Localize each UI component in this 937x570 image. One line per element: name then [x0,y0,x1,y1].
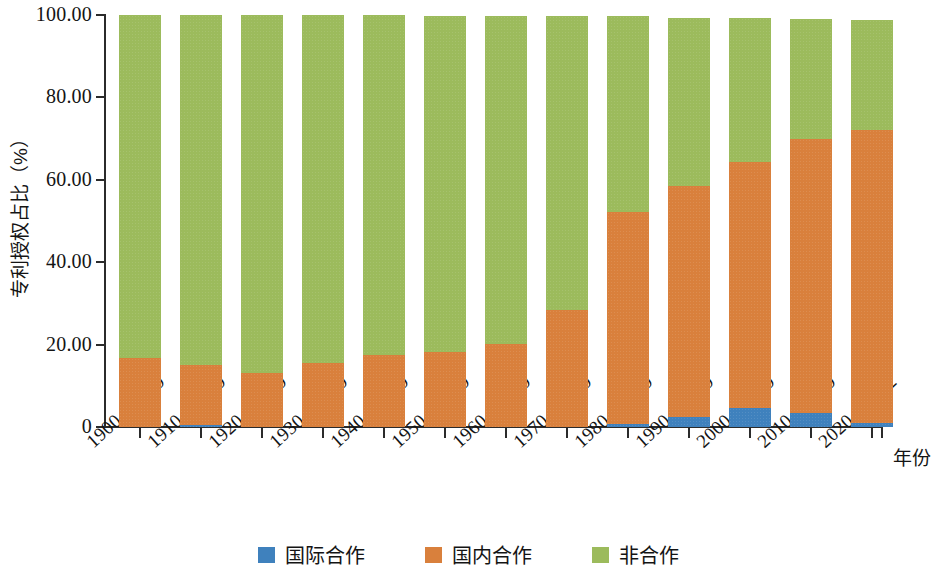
bar-segment[interactable] [607,16,649,212]
x-axis-tick [566,428,568,438]
legend-item[interactable]: 国内合作 [425,540,532,569]
x-axis-tick [139,428,141,438]
plot-area [119,15,879,427]
bar-group[interactable] [790,15,832,427]
bar-segment[interactable] [302,15,344,363]
x-axis-tick [322,428,324,438]
y-axis-tick [96,96,105,98]
x-axis-title: 年份 [893,443,931,470]
bar-group[interactable] [668,15,710,427]
x-axis-tick [810,428,812,438]
bar-segment[interactable] [729,18,771,162]
bar-segment[interactable] [851,423,893,427]
x-axis-tick [627,428,629,438]
x-axis-tick [871,428,873,438]
y-axis-title: 专利授权占比（%） [5,64,32,364]
x-axis-tick [200,428,202,438]
bar-segment[interactable] [180,15,222,365]
bar-group[interactable] [546,15,588,427]
y-axis-tick-label: 100.00 [0,4,92,24]
bar-segment[interactable] [851,20,893,131]
bar-group[interactable] [180,15,222,427]
bar-group[interactable] [607,15,649,427]
bar-segment[interactable] [180,365,222,425]
bar-group[interactable] [485,15,527,427]
y-axis-tick [96,179,105,181]
bar-group[interactable] [119,15,161,427]
legend-item[interactable]: 非合作 [592,540,679,569]
bar-segment[interactable] [424,16,466,352]
y-axis-tick [96,344,105,346]
bar-group[interactable] [424,15,466,427]
bar-group[interactable] [302,15,344,427]
bar-segment[interactable] [119,15,161,358]
x-axis-tick [261,428,263,438]
bar-segment[interactable] [851,130,893,423]
x-axis-tick [383,428,385,438]
bar-segment[interactable] [790,19,832,139]
bar-segment[interactable] [668,186,710,417]
legend-swatch [425,547,442,563]
bar-segment[interactable] [668,417,710,427]
bar-segment[interactable] [546,310,588,427]
x-axis-end-tick [881,428,883,438]
bar-segment[interactable] [729,408,771,427]
bar-segment[interactable] [546,16,588,310]
legend-label: 非合作 [619,540,679,569]
bar-group[interactable] [729,15,771,427]
y-axis-tick [96,14,105,16]
bar-segment[interactable] [363,15,405,355]
bar-segment[interactable] [485,16,527,344]
bar-segment[interactable] [424,352,466,427]
bar-segment[interactable] [180,425,222,427]
y-axis-tick [96,261,105,263]
bar-segment[interactable] [363,355,405,427]
bar-group[interactable] [851,15,893,427]
legend-item[interactable]: 国际合作 [258,540,365,569]
bar-group[interactable] [241,15,283,427]
x-axis-tick [505,428,507,438]
y-axis-tick-label: 0 [0,416,92,436]
bar-segment[interactable] [607,212,649,423]
bar-segment[interactable] [241,15,283,373]
y-axis-line [104,14,106,428]
x-axis-tick [688,428,690,438]
legend-label: 国际合作 [285,540,365,569]
bar-segment[interactable] [790,139,832,413]
bar-segment[interactable] [302,363,344,427]
legend-swatch [258,547,275,563]
bar-group[interactable] [363,15,405,427]
bar-segment[interactable] [607,424,649,427]
bar-segment[interactable] [119,358,161,427]
legend-label: 国内合作 [452,540,532,569]
chart-legend: 国际合作国内合作非合作 [0,540,937,569]
x-axis-tick [444,428,446,438]
x-axis-tick [749,428,751,438]
stacked-bar-chart: 020.0040.0060.0080.00100.00 专利授权占比（%） 19… [0,0,937,570]
bar-segment[interactable] [729,162,771,408]
bar-segment[interactable] [668,18,710,186]
legend-swatch [592,547,609,563]
bar-segment[interactable] [241,373,283,427]
bar-segment[interactable] [485,344,527,427]
bar-segment[interactable] [790,413,832,427]
